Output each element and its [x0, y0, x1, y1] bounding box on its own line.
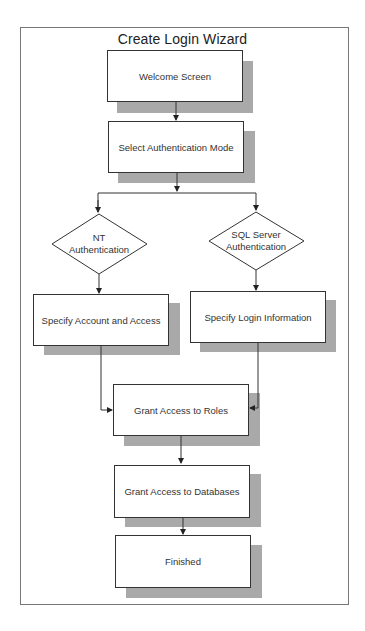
node-welcome-screen: Welcome Screen [107, 50, 243, 102]
node-grant-access-to-databases: Grant Access to Databases [114, 465, 250, 518]
node-label: Grant Access to Databases [124, 486, 239, 497]
node-label-line2: Authentication [216, 241, 296, 253]
node-label-line2: Authentication [59, 244, 139, 256]
node-sql-server-authentication: SQL Server Authentication [216, 229, 296, 253]
node-label: Finished [165, 556, 201, 567]
node-label: Select Authentication Mode [118, 142, 233, 153]
node-finished: Finished [115, 535, 251, 588]
node-label: Grant Access to Roles [134, 405, 228, 416]
node-nt-authentication: NT Authentication [59, 232, 139, 256]
node-select-authentication-mode: Select Authentication Mode [108, 121, 244, 173]
node-label: Specify Account and Access [42, 315, 161, 326]
node-specify-login-information: Specify Login Information [190, 291, 326, 343]
node-label-line1: NT [59, 232, 139, 244]
node-label-line1: SQL Server [216, 229, 296, 241]
node-specify-account-and-access: Specify Account and Access [33, 294, 169, 346]
node-label: Specify Login Information [204, 312, 311, 323]
node-label: Welcome Screen [139, 71, 211, 82]
node-grant-access-to-roles: Grant Access to Roles [113, 384, 249, 436]
